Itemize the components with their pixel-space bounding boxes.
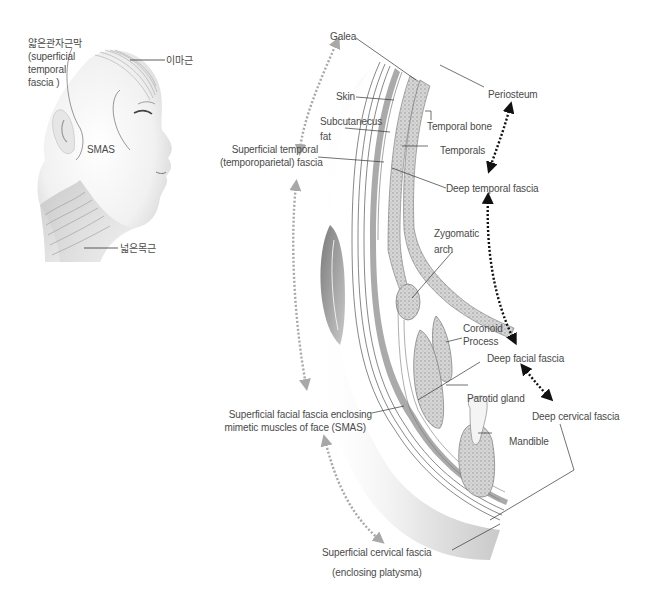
label-superficial-temporal-fascia-2: (temporoparietal) fascia [220, 156, 323, 169]
label-superficial-temporal-fascia-en-2: temporal [28, 63, 66, 76]
label-parotid-gland: Parotid gland [467, 392, 525, 405]
label-frontalis-kr: 이마근 [166, 54, 193, 67]
label-coronoid-process-1: Coronoid [463, 322, 503, 335]
label-mandible: Mandible [509, 435, 549, 448]
label-superficial-cervical-fascia-2: (enclosing platysma) [332, 566, 422, 579]
label-deep-facial-fascia: Deep facial fascia [487, 352, 564, 365]
anatomy-illustration [0, 0, 649, 605]
label-periosteum: Periosteum [488, 88, 538, 101]
fascia-diagram: 얇은관자근막 (superficial temporal fascia ) 이마… [0, 0, 649, 605]
label-superficial-temporal-fascia-en-3: fascia ) [28, 76, 59, 89]
label-smas-1: Superficial facial fascia enclosing [186, 408, 372, 421]
label-superficial-cervical-fascia-1: Superficial cervical fascia [322, 546, 432, 559]
label-galea: Galea [330, 30, 356, 43]
label-subcutaneous-fat-2: fat [320, 130, 331, 143]
label-zygomatic-arch-2: arch [434, 243, 453, 256]
label-zygomatic-arch-1: Zygomatic [434, 227, 479, 240]
label-subcutaneous-fat-1: Subcutanecus [320, 115, 382, 128]
label-coronoid-process-2: Process [463, 335, 498, 348]
label-smas: SMAS [87, 143, 115, 156]
label-deep-cervical-fascia: Deep cervical fascia [532, 410, 619, 423]
label-deep-temporal-fascia: Deep temporal fascia [446, 182, 539, 195]
label-temporals: Temporals [440, 144, 485, 157]
label-superficial-temporal-fascia-kr: 얇은관자근막 [28, 37, 81, 50]
label-superficial-temporal-fascia-en-1: (superficial [28, 50, 75, 63]
label-skin: Skin [336, 90, 355, 103]
label-smas-2: mimetic muscles of face (SMAS) [186, 421, 366, 434]
label-platysma-kr: 넓은목근 [120, 242, 156, 255]
label-temporal-bone: Temporal bone [427, 120, 492, 133]
label-superficial-temporal-fascia-1: Superficial temporal [226, 143, 318, 156]
